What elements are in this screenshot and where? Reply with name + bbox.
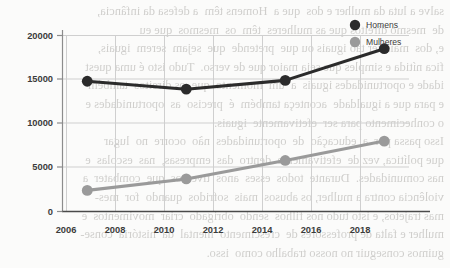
x-tick-label-2006: 2006 (56, 225, 77, 235)
x-tick-label-2008: 2008 (105, 225, 126, 235)
y-tick-marks (57, 36, 63, 212)
data-point-homens-2014 (280, 75, 291, 86)
line-chart: 20000 15000 10000 5000 0 2006 2008 2010 … (0, 0, 450, 268)
series-layer (82, 43, 390, 195)
y-tick-label-5000: 5000 (32, 162, 53, 172)
chart-svg: 20000 15000 10000 5000 0 2006 2008 2010 … (0, 0, 450, 268)
series-line-homens (87, 49, 384, 89)
x-tick-label-2016: 2016 (301, 225, 322, 235)
series-mulheres (82, 136, 390, 196)
legend-marker-homens (350, 20, 360, 30)
y-tick-label-15000: 15000 (27, 74, 53, 84)
series-line-mulheres (87, 141, 384, 190)
x-tick-label-2018: 2018 (350, 225, 371, 235)
data-point-mulheres-2014 (280, 155, 291, 166)
legend-label-mulheres: Mulheres (366, 37, 401, 47)
y-tick-label-20000: 20000 (27, 31, 53, 41)
series-homens (82, 43, 390, 94)
x-tick-label-2010: 2010 (154, 225, 175, 235)
legend-marker-mulheres (350, 37, 360, 47)
chart-legend: Homens Mulheres (350, 20, 402, 47)
data-point-mulheres-2010 (181, 174, 192, 185)
chart-page: salve a luta da mulher e dos que a Homen… (0, 0, 450, 268)
legend-label-homens: Homens (366, 20, 398, 30)
data-point-homens-2010 (181, 84, 192, 95)
x-tick-label-2014: 2014 (252, 225, 274, 235)
data-point-mulheres-2006 (82, 185, 93, 196)
x-tick-label-2012: 2012 (203, 225, 224, 235)
data-point-homens-2006 (82, 76, 93, 87)
data-point-mulheres-2018 (379, 136, 390, 147)
y-tick-label-0: 0 (48, 207, 53, 217)
y-tick-label-10000: 10000 (27, 118, 53, 128)
